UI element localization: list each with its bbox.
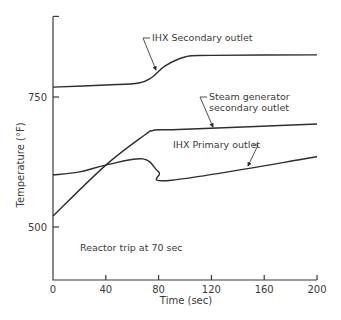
x-tick-label: 120 — [202, 284, 221, 295]
y-axis-title: Temperature (°F) — [15, 122, 26, 208]
ticks: 04080120160200500750 — [28, 16, 327, 295]
y-tick-label: 500 — [28, 222, 47, 233]
x-axis-title: Time (sec) — [159, 295, 212, 306]
x-tick-label: 40 — [99, 284, 112, 295]
temperature-chart: 04080120160200500750 Time (sec) Temperat… — [0, 0, 341, 320]
x-tick-label: 0 — [50, 284, 56, 295]
x-tick-label: 160 — [255, 284, 274, 295]
steam-generator-secondary-outlet-line — [53, 124, 317, 216]
ihx-secondary-outlet-line — [53, 55, 317, 87]
x-tick-label: 80 — [152, 284, 165, 295]
x-tick-label: 200 — [307, 284, 326, 295]
annotation-reactor-trip: Reactor trip at 70 sec — [80, 242, 183, 253]
annotation-ihx-primary: IHX Primary outlet — [173, 139, 260, 150]
annotation-ihx-secondary: IHX Secondary outlet — [152, 32, 253, 43]
y-tick-label: 750 — [28, 92, 47, 103]
annotation-steam-generator-1: Steam generator — [209, 91, 290, 102]
annotation-steam-generator-2: secondary outlet — [209, 102, 289, 113]
curves — [53, 55, 317, 216]
